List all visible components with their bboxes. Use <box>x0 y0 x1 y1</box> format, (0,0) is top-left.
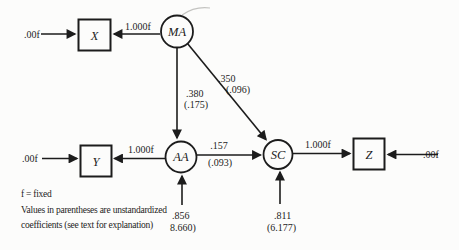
scan-artifact-mark <box>182 8 210 15</box>
edge-aa-error: .856 8.660) <box>170 176 196 234</box>
aa-error-standardized: .856 <box>172 210 190 221</box>
path-diagram: .00f 1.000f .380 (.175) .350 (.096) .00f… <box>0 0 459 250</box>
edge-ma-to-aa: .380 (.175) <box>177 48 208 139</box>
footnote: f = fixed Values in parentheses are unst… <box>21 189 167 231</box>
z-residual-label: .00f <box>423 149 440 160</box>
node-ma: MA <box>161 16 193 48</box>
edge-sc-to-z: 1.000f <box>293 139 351 154</box>
node-y: Y <box>81 146 112 177</box>
sc-error-unstandardized: (6.177) <box>267 222 296 234</box>
ma-label: MA <box>167 25 186 39</box>
ma-to-sc-unstandardized: (.096) <box>226 84 250 96</box>
aa-to-y-label: 1.000f <box>128 144 155 155</box>
x-label: X <box>90 29 100 43</box>
y-residual-label: .00f <box>22 153 39 164</box>
edge-sc-error: .811 (6.177) <box>267 172 296 234</box>
ma-to-aa-standardized: .380 <box>186 88 204 99</box>
ma-to-sc-standardized: .350 <box>218 73 236 84</box>
node-aa: AA <box>166 142 197 173</box>
edge-ma-to-x: 1.000f <box>114 21 160 34</box>
sc-error-standardized: .811 <box>274 210 291 221</box>
footnote-line2: Values in parentheses are unstandardized <box>21 205 167 215</box>
ma-to-x-label: 1.000f <box>125 21 152 32</box>
node-x: X <box>79 20 111 51</box>
edge-x-residual: .00f <box>24 29 75 40</box>
aa-label: AA <box>172 150 189 164</box>
ma-to-aa-unstandardized: (.175) <box>184 99 208 111</box>
diagram-svg: .00f 1.000f .380 (.175) .350 (.096) .00f… <box>0 0 459 250</box>
node-sc: SC <box>264 140 293 169</box>
footnote-line1: f = fixed <box>21 189 52 199</box>
edge-aa-to-sc: .157 (.093) <box>197 140 261 169</box>
edge-z-residual: .00f <box>388 149 440 160</box>
aa-to-sc-standardized: .157 <box>210 140 228 151</box>
x-residual-label: .00f <box>24 29 41 40</box>
sc-to-z-label: 1.000f <box>305 139 332 150</box>
edge-y-residual: .00f <box>22 153 77 164</box>
sc-label: SC <box>271 148 286 162</box>
aa-to-sc-unstandardized: (.093) <box>208 157 232 169</box>
aa-error-unstandardized: 8.660) <box>170 222 196 234</box>
node-z: Z <box>354 139 385 170</box>
footnote-line3: coefficients (see text for explanation) <box>21 220 153 231</box>
edge-aa-to-y: 1.000f <box>115 144 166 159</box>
z-label: Z <box>366 148 374 162</box>
